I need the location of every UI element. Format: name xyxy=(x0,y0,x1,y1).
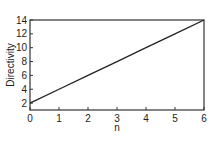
y-tick-label: 4 xyxy=(21,84,27,95)
x-tick-label: 2 xyxy=(85,113,91,124)
x-axis-label: n xyxy=(114,122,120,133)
x-tick-label: 6 xyxy=(201,113,207,124)
y-tick-label: 12 xyxy=(16,28,28,39)
plot-border xyxy=(30,20,204,110)
directivity-chart: 2468101214 0123456 n Directivity xyxy=(0,0,217,141)
y-tick-label: 6 xyxy=(21,70,27,81)
y-tick-label: 8 xyxy=(21,56,27,67)
x-tick-label: 4 xyxy=(143,113,149,124)
y-tick-label: 10 xyxy=(16,42,28,53)
x-tick-label: 5 xyxy=(172,113,178,124)
data-series xyxy=(30,20,204,103)
directivity-line xyxy=(30,20,204,103)
x-tick-label: 1 xyxy=(56,113,62,124)
y-axis-label: Directivity xyxy=(5,43,16,86)
x-tick-label: 0 xyxy=(27,113,33,124)
y-tick-label: 14 xyxy=(16,15,28,26)
plot-frame xyxy=(30,20,204,110)
y-tick-label: 2 xyxy=(21,98,27,109)
